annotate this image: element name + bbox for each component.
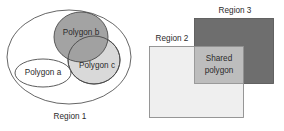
diagram-canvas: Polygon b Polygon c Polygon a Region 1 R… xyxy=(0,0,284,131)
label-shared-polygon-line1: Shared xyxy=(206,54,233,63)
label-shared-polygon-line2: polygon xyxy=(205,66,234,75)
containment-diagram: Polygon b Polygon c Polygon a Region 1 xyxy=(7,10,131,121)
diagram-svg: Polygon b Polygon c Polygon a Region 1 R… xyxy=(0,0,284,131)
label-polygon-a: Polygon a xyxy=(25,68,62,77)
label-region-2: Region 2 xyxy=(156,34,189,43)
label-polygon-b: Polygon b xyxy=(63,28,100,37)
shape-shared-polygon[interactable] xyxy=(195,47,244,84)
label-region-3: Region 3 xyxy=(219,6,252,15)
label-polygon-c: Polygon c xyxy=(79,61,115,70)
label-region-1: Region 1 xyxy=(54,112,87,121)
overlap-diagram: Region 3 Region 2 Shared polygon xyxy=(150,6,274,117)
